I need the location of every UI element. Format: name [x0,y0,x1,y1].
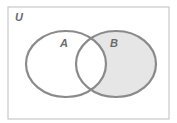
set-a-label: A [59,37,68,49]
venn-diagram: U A B [0,0,177,123]
set-b-label: B [110,37,118,49]
universe-label: U [15,11,24,23]
